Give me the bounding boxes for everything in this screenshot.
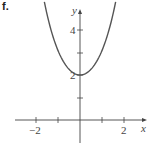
plot: −2 2 2 4 x y xyxy=(0,0,155,158)
y-axis-arrow-icon xyxy=(78,9,82,14)
y-axis-label: y xyxy=(71,4,77,16)
x-tick-label-2: 2 xyxy=(121,124,127,136)
y-tick-label-4: 4 xyxy=(70,24,76,36)
x-tick-label-neg2: −2 xyxy=(29,124,41,136)
x-axis-label: x xyxy=(140,122,146,134)
